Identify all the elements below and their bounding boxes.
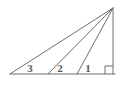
angle-label-3: 3 bbox=[27, 62, 33, 74]
geometry-figure: 3 2 1 bbox=[0, 0, 123, 87]
angle-label-1: 1 bbox=[85, 62, 91, 74]
cevian-inner bbox=[77, 8, 113, 74]
right-angle-marker bbox=[105, 66, 113, 74]
triangle-diagram-svg: 3 2 1 bbox=[0, 0, 123, 87]
angle-label-2: 2 bbox=[57, 62, 63, 74]
